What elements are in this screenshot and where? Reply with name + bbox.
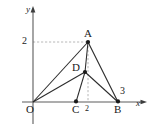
point-label-C: C — [72, 104, 79, 115]
y-tick-label-2: 2 — [22, 36, 27, 46]
x-tick-label-2: 2 — [85, 105, 89, 113]
point-label-B: B — [114, 104, 121, 115]
y-axis-label: y — [26, 5, 30, 14]
point-label-D: D — [72, 62, 80, 73]
x-tick-label-3: 3 — [120, 86, 125, 96]
segment-D-B — [85, 72, 118, 102]
x-axis-label: x — [136, 99, 140, 108]
segment-A-B — [88, 42, 118, 102]
segment-A-D — [85, 42, 88, 72]
x-axis-arrowhead — [141, 100, 148, 105]
geometry-figure: y x O A D C B 2 2 3 — [0, 0, 150, 131]
point-label-A: A — [84, 28, 92, 39]
y-axis-arrowhead — [31, 6, 36, 13]
point-dot-A — [86, 40, 90, 44]
point-dot-D — [83, 70, 87, 74]
origin-label: O — [26, 104, 34, 115]
